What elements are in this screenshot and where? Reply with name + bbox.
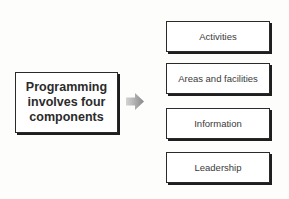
right-arrow-icon [126,93,144,110]
component-label: Activities [199,31,236,42]
programming-label: Programming involves four components [20,80,113,125]
component-box-information: Information [166,108,270,139]
programming-box: Programming involves four components [15,72,118,133]
component-label: Areas and facilities [178,73,258,84]
component-label: Leadership [194,162,241,173]
component-label: Information [194,118,242,129]
component-box-areas-and-facilities: Areas and facilities [166,63,270,94]
component-box-activities: Activities [166,21,270,52]
component-box-leadership: Leadership [166,152,270,183]
